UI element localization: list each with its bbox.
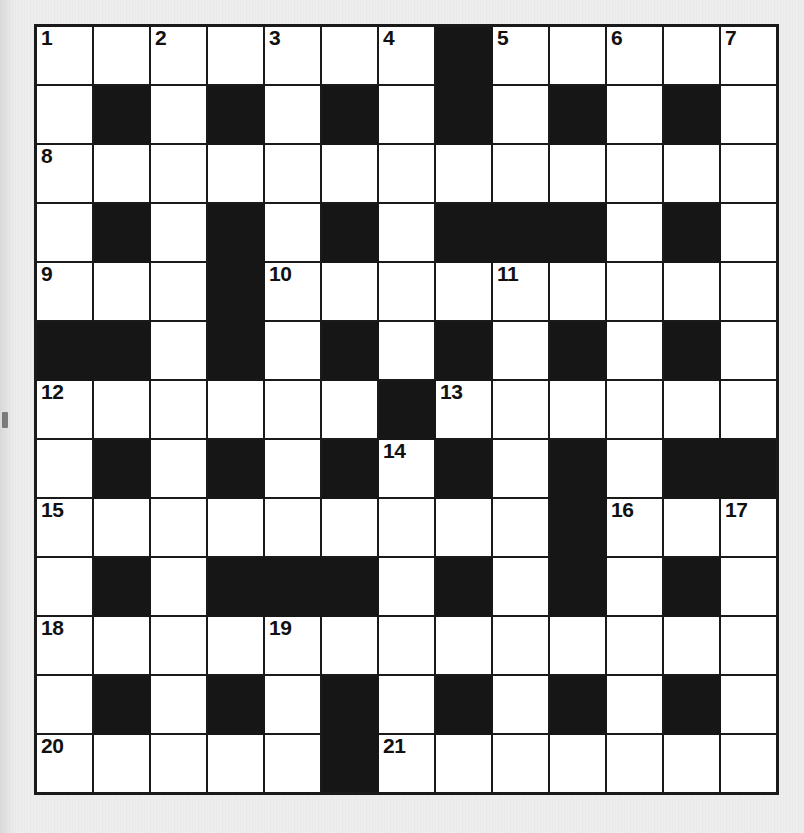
crossword-cell[interactable] [720, 616, 778, 675]
crossword-grid[interactable]: 123456789101112131415161718192021 [34, 24, 779, 795]
crossword-cell[interactable] [36, 85, 94, 144]
crossword-cell[interactable] [492, 439, 549, 498]
crossword-cell[interactable] [93, 380, 150, 439]
crossword-cell[interactable] [720, 675, 778, 734]
crossword-cell-4[interactable]: 4 [378, 26, 435, 86]
crossword-cell-10[interactable]: 10 [264, 262, 321, 321]
crossword-cell[interactable] [606, 616, 663, 675]
crossword-cell[interactable] [321, 262, 378, 321]
crossword-cell[interactable] [36, 203, 94, 262]
crossword-cell[interactable] [150, 144, 207, 203]
crossword-cell-19[interactable]: 19 [264, 616, 321, 675]
crossword-cell[interactable] [378, 498, 435, 557]
crossword-cell[interactable] [549, 26, 606, 86]
crossword-cell[interactable] [150, 85, 207, 144]
crossword-cell[interactable] [150, 439, 207, 498]
crossword-cell[interactable] [492, 144, 549, 203]
crossword-cell[interactable] [549, 144, 606, 203]
crossword-cell[interactable] [606, 675, 663, 734]
crossword-cell[interactable] [663, 498, 720, 557]
crossword-cell[interactable] [321, 144, 378, 203]
crossword-cell[interactable] [720, 321, 778, 380]
crossword-cell[interactable] [321, 498, 378, 557]
crossword-cell[interactable] [207, 616, 264, 675]
crossword-cell-8[interactable]: 8 [36, 144, 94, 203]
crossword-cell[interactable] [93, 616, 150, 675]
crossword-cell-14[interactable]: 14 [378, 439, 435, 498]
crossword-cell[interactable] [492, 85, 549, 144]
crossword-cell[interactable] [606, 734, 663, 794]
crossword-cell[interactable] [663, 380, 720, 439]
crossword-cell[interactable] [93, 262, 150, 321]
crossword-cell[interactable] [264, 203, 321, 262]
crossword-cell[interactable] [378, 85, 435, 144]
crossword-cell[interactable] [720, 557, 778, 616]
crossword-cell[interactable] [606, 557, 663, 616]
crossword-cell[interactable] [378, 557, 435, 616]
crossword-cell[interactable] [720, 262, 778, 321]
crossword-cell-16[interactable]: 16 [606, 498, 663, 557]
crossword-cell[interactable] [207, 144, 264, 203]
crossword-cell-6[interactable]: 6 [606, 26, 663, 86]
crossword-cell[interactable] [549, 262, 606, 321]
crossword-cell[interactable] [492, 675, 549, 734]
crossword-cell-21[interactable]: 21 [378, 734, 435, 794]
crossword-cell[interactable] [606, 144, 663, 203]
crossword-cell[interactable] [321, 26, 378, 86]
crossword-cell[interactable] [150, 262, 207, 321]
crossword-cell[interactable] [36, 675, 94, 734]
crossword-cell-15[interactable]: 15 [36, 498, 94, 557]
crossword-cell-12[interactable]: 12 [36, 380, 94, 439]
crossword-cell[interactable] [264, 734, 321, 794]
crossword-cell[interactable] [36, 439, 94, 498]
crossword-cell[interactable] [93, 26, 150, 86]
crossword-cell[interactable] [150, 380, 207, 439]
crossword-cell[interactable] [264, 439, 321, 498]
crossword-cell[interactable] [150, 203, 207, 262]
crossword-cell[interactable] [663, 262, 720, 321]
crossword-cell[interactable] [264, 144, 321, 203]
crossword-cell[interactable] [264, 498, 321, 557]
crossword-cell[interactable] [720, 734, 778, 794]
crossword-cell[interactable] [606, 262, 663, 321]
crossword-cell-13[interactable]: 13 [435, 380, 492, 439]
crossword-cell-3[interactable]: 3 [264, 26, 321, 86]
crossword-cell[interactable] [663, 144, 720, 203]
crossword-cell[interactable] [606, 380, 663, 439]
crossword-cell[interactable] [264, 675, 321, 734]
crossword-cell[interactable] [207, 380, 264, 439]
crossword-cell[interactable] [549, 734, 606, 794]
crossword-cell[interactable] [720, 85, 778, 144]
crossword-cell[interactable] [435, 616, 492, 675]
crossword-cell[interactable] [150, 734, 207, 794]
crossword-cell[interactable] [378, 321, 435, 380]
crossword-cell[interactable] [435, 144, 492, 203]
crossword-cell[interactable] [207, 498, 264, 557]
crossword-cell[interactable] [663, 616, 720, 675]
crossword-cell[interactable] [378, 262, 435, 321]
crossword-cell[interactable] [492, 616, 549, 675]
crossword-cell[interactable] [264, 321, 321, 380]
crossword-cell-9[interactable]: 9 [36, 262, 94, 321]
crossword-cell[interactable] [492, 557, 549, 616]
crossword-cell[interactable] [264, 85, 321, 144]
crossword-cell[interactable] [663, 734, 720, 794]
crossword-cell[interactable] [321, 380, 378, 439]
crossword-cell[interactable] [150, 616, 207, 675]
crossword-cell[interactable] [606, 203, 663, 262]
crossword-cell[interactable] [93, 144, 150, 203]
crossword-cell[interactable] [264, 380, 321, 439]
crossword-cell[interactable] [93, 498, 150, 557]
crossword-cell-20[interactable]: 20 [36, 734, 94, 794]
crossword-cell[interactable] [606, 85, 663, 144]
crossword-cell[interactable] [720, 144, 778, 203]
crossword-cell[interactable] [36, 557, 94, 616]
crossword-cell[interactable] [492, 321, 549, 380]
crossword-cell-18[interactable]: 18 [36, 616, 94, 675]
crossword-cell[interactable] [207, 734, 264, 794]
crossword-cell[interactable] [150, 498, 207, 557]
crossword-cell[interactable] [663, 26, 720, 86]
crossword-cell[interactable] [378, 616, 435, 675]
crossword-cell[interactable] [321, 616, 378, 675]
crossword-cell[interactable] [720, 203, 778, 262]
